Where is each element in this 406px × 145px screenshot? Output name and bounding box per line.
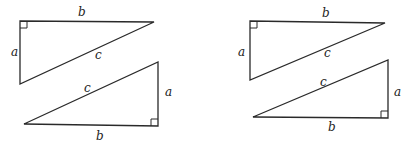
right-angle-marker <box>250 21 257 28</box>
right-bottom-triangle: a b c <box>253 60 401 134</box>
triangle-outline <box>253 60 388 118</box>
left-bottom-triangle: a b c <box>24 62 172 143</box>
label-b: b <box>328 120 336 134</box>
label-a: a <box>238 45 245 59</box>
diagram-canvas: a b c a b c a b c a b c <box>0 0 406 145</box>
label-b: b <box>78 5 86 19</box>
label-b: b <box>96 129 104 143</box>
right-angle-marker <box>151 119 158 126</box>
label-a: a <box>394 85 401 99</box>
triangle-outline <box>24 62 158 126</box>
label-a: a <box>165 85 172 99</box>
right-angle-marker <box>20 21 27 28</box>
left-top-triangle: a b c <box>11 5 154 84</box>
label-a: a <box>11 45 18 59</box>
triangle-outline <box>250 21 385 80</box>
label-c: c <box>84 81 91 95</box>
right-top-triangle: a b c <box>238 6 385 80</box>
label-c: c <box>324 46 331 60</box>
label-c: c <box>320 75 327 89</box>
right-angle-marker <box>381 111 388 118</box>
label-b: b <box>322 6 330 20</box>
triangle-outline <box>20 21 154 84</box>
label-c: c <box>95 48 102 62</box>
